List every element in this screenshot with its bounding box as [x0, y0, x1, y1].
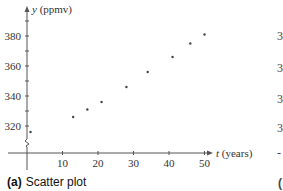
- data-point: [125, 86, 127, 88]
- adjacent-tick-fragment: 3: [277, 61, 283, 76]
- data-point: [147, 71, 149, 73]
- x-tick-label: 10: [57, 157, 69, 169]
- data-point: [72, 116, 74, 118]
- adjacent-tick-fragment: -: [277, 146, 281, 161]
- adjacent-tick-fragment: 3: [277, 92, 283, 107]
- y-tick-label: 360: [5, 60, 22, 72]
- x-tick-label: 40: [164, 157, 176, 169]
- y-axis-arrow-icon: [25, 6, 30, 12]
- data-point: [189, 42, 191, 44]
- y-axis-label: y (ppmv): [31, 3, 72, 16]
- axis-break-icon: [25, 139, 29, 147]
- x-axis-label: t (years): [216, 147, 253, 160]
- figure-caption: (a)Scatter plot: [7, 175, 86, 189]
- data-point: [203, 33, 205, 35]
- x-axis-arrow-icon: [207, 151, 213, 156]
- y-tick-label: 380: [5, 30, 22, 42]
- x-tick-label: 30: [128, 157, 140, 169]
- data-point: [100, 101, 102, 103]
- data-point: [86, 108, 88, 110]
- x-tick-label: 20: [93, 157, 105, 169]
- adjacent-tick-fragment: 3: [277, 29, 283, 44]
- data-point: [29, 131, 31, 133]
- axes: 3203403603801020304050y (ppmv)t (years): [5, 3, 253, 170]
- y-tick-label: 320: [5, 120, 22, 132]
- y-tick-label: 340: [5, 90, 22, 102]
- adjacent-caption-fragment: (: [278, 176, 282, 190]
- data-points: [29, 33, 205, 133]
- data-point: [171, 56, 173, 58]
- adjacent-tick-fragment: 3: [277, 121, 283, 136]
- caption-label: (a): [7, 175, 22, 189]
- scatter-plot: 3203403603801020304050y (ppmv)t (years): [0, 0, 283, 191]
- caption-text: Scatter plot: [26, 175, 87, 189]
- x-tick-label: 50: [199, 157, 211, 169]
